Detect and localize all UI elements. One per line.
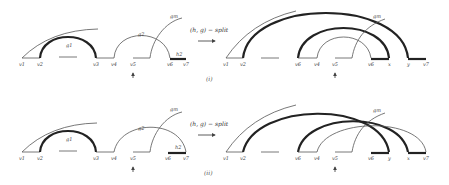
- vertex-label: v7: [183, 61, 190, 67]
- label-g1: g1: [66, 42, 72, 49]
- vertex-label: x: [407, 155, 410, 161]
- label-gm: gm: [373, 13, 381, 20]
- vertex-label: v1: [19, 61, 25, 67]
- vertex-label: v5: [332, 155, 338, 161]
- vertex-label: v2: [240, 61, 246, 67]
- vertex-label: v1: [223, 61, 229, 67]
- vertex-label: v1: [223, 155, 229, 161]
- vertex-label: v4: [111, 155, 117, 161]
- label-g1: g1: [66, 136, 72, 143]
- vertex-label: v4: [111, 61, 117, 67]
- vertex-label: y: [387, 155, 391, 162]
- vertex-label: v6: [368, 155, 375, 161]
- panel-ii-before: g1 g2 gm h2 v1 v2 v3 v4 v5 v6 v7: [19, 106, 190, 172]
- vertex-label: v6: [295, 61, 302, 67]
- vertex-label: v3: [93, 61, 99, 67]
- vertex-label: v5: [130, 61, 136, 67]
- label-g2: g2: [138, 31, 144, 38]
- vertex-label: v1: [19, 155, 25, 161]
- operation-label: (h, g) − split: [190, 26, 229, 34]
- caption-i: (i): [206, 75, 213, 82]
- label-g2: g2: [138, 125, 144, 132]
- label-gm: gm: [170, 13, 178, 20]
- arc-inner: [317, 126, 426, 152]
- panel-i-after: gm v1 v2 v6 v4 v5 v6 x y v7: [223, 11, 430, 78]
- panel-ii-after: gm v1 v2 v6 v4 v5 v6 y x v7: [223, 105, 430, 172]
- label-h: h2: [176, 51, 182, 57]
- vertex-label: v5: [130, 155, 136, 161]
- label-gm: gm: [373, 107, 381, 114]
- vertex-label: v7: [423, 61, 430, 67]
- vertex-label: v6: [295, 155, 302, 161]
- vertex-label: v3: [93, 155, 99, 161]
- outer-arc: [22, 123, 97, 152]
- caption-ii: (ii): [204, 169, 213, 176]
- arc-inner: [317, 37, 371, 58]
- arc-mid: [298, 28, 389, 58]
- panel-i-before: g1 g2 gm h2 v1 v2 v3 v4 v5 v6 v7: [19, 13, 190, 78]
- label-gm: gm: [170, 106, 178, 113]
- label-h: h2: [175, 144, 181, 150]
- vertex-label: v5: [332, 61, 338, 67]
- vertex-label: x: [388, 61, 391, 67]
- operation-label: (h, g) − split: [190, 120, 229, 128]
- vertex-label: v7: [183, 155, 190, 161]
- vertex-label: v6: [165, 155, 172, 161]
- vertex-label: v4: [314, 61, 320, 67]
- vertex-label: v6: [167, 61, 174, 67]
- vertex-label: v2: [240, 155, 246, 161]
- vertex-label: v2: [37, 155, 43, 161]
- vertex-label: y: [406, 61, 410, 68]
- arc-g2: [114, 36, 170, 59]
- arc-big: [243, 114, 389, 152]
- vertex-label: v6: [368, 61, 375, 67]
- split-diagram: g1 g2 gm h2 v1 v2 v3 v4 v5 v6 v7 (h, g) …: [0, 0, 449, 185]
- vertex-label: v2: [37, 61, 43, 67]
- vertex-label: v4: [314, 155, 320, 161]
- vertex-label: v7: [423, 155, 430, 161]
